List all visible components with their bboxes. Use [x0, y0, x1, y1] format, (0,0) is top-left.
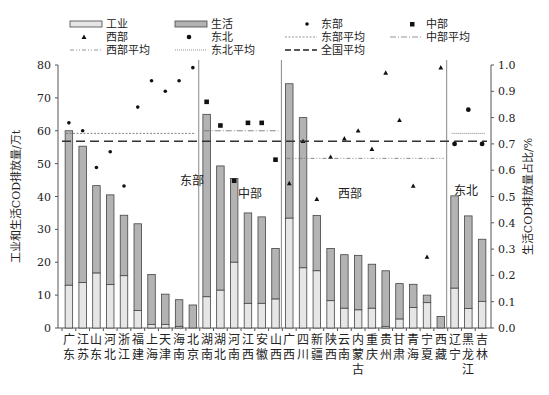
industry-segment	[478, 301, 486, 328]
domestic-segment	[230, 178, 238, 262]
bar-甘肃	[396, 284, 404, 328]
y2-tick-label: 0.8	[498, 112, 516, 125]
bar-广西	[286, 84, 294, 328]
x-tick-label: 海	[407, 347, 419, 362]
cod-emission-chart: 工业生活东部中部西部东北东部平均中部平均西部平均东北平均全国平均 0102030…	[0, 0, 549, 395]
x-tick-label: 疆	[311, 348, 323, 362]
triangle-marker-icon	[82, 35, 87, 40]
domestic-segment	[341, 255, 349, 309]
x-tick-label: 南	[228, 347, 240, 362]
domestic-segment	[120, 215, 128, 275]
y-tick-label: 60	[37, 125, 51, 138]
x-tick-label: 肃	[393, 348, 405, 362]
diamond-marker-icon	[177, 79, 181, 83]
bar-辽宁	[451, 196, 459, 328]
y-axis-title: 工业和生活COD排放量/万t	[9, 129, 23, 263]
legend-label: 东部	[321, 17, 343, 31]
legend-item-northeast: 东北	[187, 31, 233, 44]
bar-安徽	[258, 217, 266, 328]
plot-area: 东部中部西部东北	[62, 60, 487, 328]
bar-广东	[65, 131, 73, 328]
region-label: 东部	[180, 173, 204, 188]
square-marker-icon	[204, 100, 209, 105]
square-marker-icon	[246, 121, 251, 126]
legend-label: 全国平均	[321, 43, 365, 57]
x-tick-label: 北	[187, 333, 199, 347]
square-marker-icon	[410, 22, 415, 27]
triangle-marker-icon	[397, 118, 402, 122]
triangle-marker-icon	[314, 197, 319, 201]
legend-item-east_avg: 东部平均	[285, 30, 365, 44]
industry-segment	[134, 311, 142, 328]
industry-segment	[162, 324, 170, 328]
circle-marker-icon	[466, 107, 471, 112]
diamond-marker-icon	[164, 90, 168, 94]
domestic-segment	[65, 131, 73, 286]
x-tick-label: 南	[201, 347, 213, 362]
square-marker-icon	[232, 178, 237, 183]
industry-segment	[465, 309, 473, 328]
bar-四川	[299, 118, 307, 328]
bar-山东	[93, 186, 101, 328]
industry-segment	[258, 303, 266, 328]
legend-item-domestic: 生活	[175, 17, 233, 31]
x-tick-label: 西	[270, 348, 282, 362]
x-tick-label: 津	[159, 348, 171, 362]
x-tick-label: 江	[118, 348, 130, 362]
bar-河北	[106, 195, 114, 328]
triangle-marker-icon	[411, 183, 416, 187]
bar-河南	[230, 178, 238, 328]
industry-segment	[299, 268, 307, 328]
bar-云南	[341, 255, 349, 328]
y-tick-label: 30	[37, 223, 51, 236]
y2-tick-label: 0.0	[498, 322, 516, 335]
bar-福建	[134, 224, 142, 328]
y2-tick-label: 0.2	[498, 269, 516, 282]
industry-segment	[354, 310, 362, 328]
x-tick-label: 浙	[118, 333, 130, 347]
domestic-segment	[354, 255, 362, 310]
legend-item-west_avg: 西部平均	[70, 43, 150, 57]
y-tick-label: 50	[37, 158, 51, 171]
x-tick-label: 河	[104, 333, 116, 347]
x-tick-label: 上	[146, 333, 158, 347]
y-tick-label: 0	[44, 322, 51, 335]
legend-label: 中部平均	[426, 30, 470, 44]
x-tick-label: 贵	[380, 333, 392, 347]
region-label: 西部	[338, 186, 362, 201]
y2-tick-label: 0.9	[498, 85, 516, 98]
x-tick-label: 河	[228, 333, 240, 347]
legend-label: 东部平均	[321, 30, 365, 44]
x-tick-label: 西	[242, 348, 254, 362]
domestic-segment	[451, 196, 459, 288]
bar-江苏	[79, 146, 87, 328]
bar-宁夏	[423, 295, 431, 328]
domestic-segment	[106, 195, 114, 285]
legend-label: 中部	[426, 17, 448, 31]
industry-segment	[451, 288, 459, 328]
x-tick-label: 北	[214, 348, 226, 362]
square-marker-icon	[218, 123, 223, 128]
bar-北京	[189, 305, 197, 328]
x-tick-label: 南	[173, 347, 185, 362]
x-tick-label: 山	[270, 333, 282, 347]
x-tick-label: 西	[283, 348, 295, 362]
domestic-segment	[368, 264, 376, 308]
industry-segment	[313, 271, 321, 328]
domestic-segment	[134, 224, 142, 311]
x-tick-label: 林	[476, 348, 488, 362]
legend-label: 东北	[211, 31, 233, 44]
x-tick-label: 南	[338, 347, 350, 362]
diamond-marker-icon	[67, 121, 71, 125]
y2-axis-title: 生活COD排放量占比/%	[521, 138, 535, 255]
bar-上海	[148, 274, 156, 328]
x-tick-label: 苏	[77, 348, 89, 362]
domestic-segment	[465, 216, 473, 309]
domestic-segment	[286, 84, 294, 218]
bar-湖北	[217, 166, 225, 328]
industry-segment	[341, 308, 349, 328]
triangle-marker-icon	[342, 136, 347, 140]
x-tick-label: 安	[256, 332, 268, 347]
x-tick-label: 蒙	[352, 348, 364, 362]
industry-segment	[409, 308, 417, 328]
